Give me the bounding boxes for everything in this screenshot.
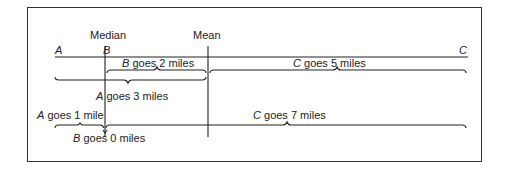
- point-c-label: C: [459, 44, 467, 56]
- c-var: C: [253, 109, 261, 121]
- b-goes-2-label: B goes 2 miles: [122, 57, 194, 69]
- c-text: goes 5 miles: [301, 57, 366, 69]
- b-text: goes 2 miles: [129, 57, 194, 69]
- brace-c-7: [106, 122, 466, 128]
- mean-label: Mean: [193, 29, 221, 41]
- b-goes-0-label: B goes 0 miles: [73, 132, 145, 144]
- a-text: goes 1 mile: [44, 109, 103, 121]
- a-text: goes 3 miles: [103, 90, 168, 102]
- diagram-lines: [0, 0, 513, 175]
- median-label: Median: [90, 29, 126, 41]
- point-b-label: B: [103, 44, 110, 56]
- a-goes-3-label: A goes 3 miles: [96, 90, 168, 102]
- point-a-label: A: [55, 44, 62, 56]
- b-text: goes 0 miles: [80, 132, 145, 144]
- c-goes-7-label: C goes 7 miles: [253, 109, 326, 121]
- brace-a-3: [55, 77, 206, 83]
- brace-a-1: [55, 123, 104, 128]
- c-goes-5-label: C goes 5 miles: [293, 57, 366, 69]
- c-var: C: [293, 57, 301, 69]
- c-text: goes 7 miles: [261, 109, 326, 121]
- a-goes-1-label: A goes 1 mile: [37, 109, 104, 121]
